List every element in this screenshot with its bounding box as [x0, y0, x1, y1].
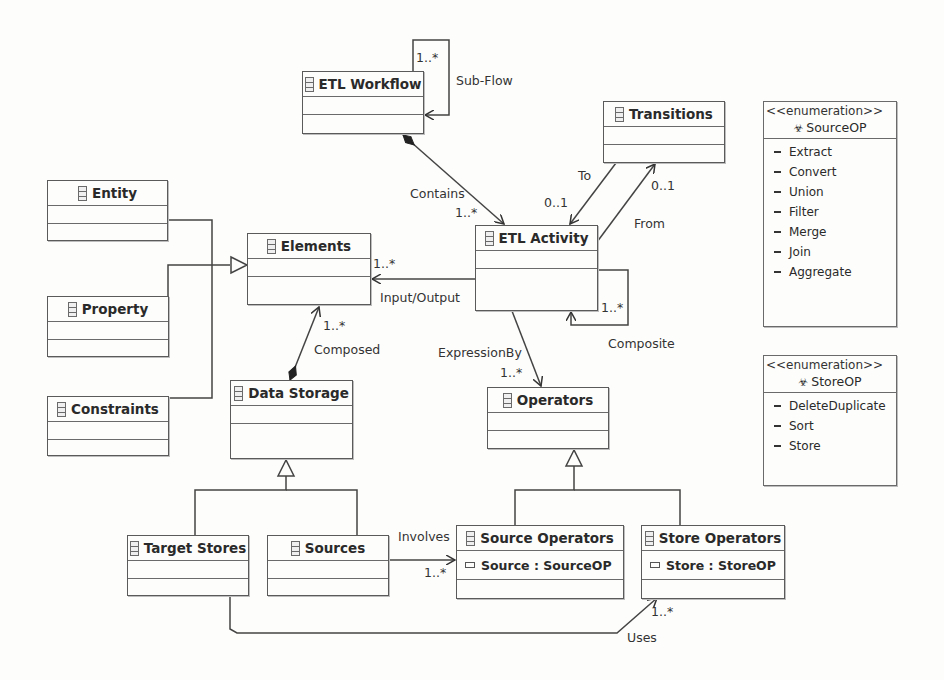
attribute-icon [465, 562, 475, 568]
attribute-store[interactable]: Store : StoreOP [666, 558, 776, 573]
operations-compartment [642, 580, 784, 597]
class-name: ETL Activity [499, 230, 589, 246]
class-icon [615, 107, 624, 122]
attributes-compartment [604, 127, 724, 145]
literal-icon [774, 171, 781, 173]
enum-literal[interactable]: Aggregate [764, 262, 896, 282]
enum-literal[interactable]: Filter [764, 202, 896, 222]
class-name: Elements [281, 238, 351, 254]
class-icon [305, 77, 314, 92]
literal-label: Filter [789, 205, 819, 219]
from-label: From [634, 216, 665, 231]
operations-compartment [476, 269, 597, 286]
class-icon [291, 541, 300, 556]
class-etl-workflow[interactable]: ETL Workflow [302, 71, 424, 134]
operations-compartment [457, 580, 623, 597]
enum-literal[interactable]: Store [764, 436, 896, 456]
involves-multiplicity: 1..* [424, 565, 446, 580]
class-icon [503, 393, 512, 408]
stereotype-label: <<enumeration>> [764, 358, 896, 372]
attributes-compartment [48, 206, 167, 224]
enum-literal[interactable]: Convert [764, 162, 896, 182]
enum-name: SourceOP [806, 120, 866, 135]
class-name: Target Stores [144, 540, 247, 556]
attributes-compartment [268, 561, 388, 579]
class-name: Constraints [71, 401, 159, 417]
literal-label: Sort [789, 419, 814, 433]
operations-compartment [48, 224, 167, 241]
literal-icon [774, 445, 781, 447]
class-transitions[interactable]: Transitions [603, 101, 725, 163]
enum-literal[interactable]: Union [764, 182, 896, 202]
class-name: Entity [92, 185, 137, 201]
uses-label: Uses [627, 630, 657, 645]
class-constraints[interactable]: Constraints [47, 396, 169, 456]
class-name: Store Operators [659, 530, 781, 546]
attribute-icon [650, 562, 660, 568]
class-icon [130, 541, 139, 556]
enum-sourceop[interactable]: <<enumeration>> ☣SourceOP Extract Conver… [763, 101, 897, 327]
class-elements[interactable]: Elements [247, 233, 371, 305]
expressionby-multiplicity: 1..* [500, 365, 522, 380]
composite-multiplicity: 1..* [601, 300, 623, 315]
attributes-compartment [48, 422, 168, 440]
class-icon [234, 386, 243, 401]
literal-icon [774, 191, 781, 193]
literal-icon [774, 405, 781, 407]
enum-literal[interactable]: Extract [764, 142, 896, 162]
class-icon [267, 239, 276, 254]
uses-multiplicity: 1..* [651, 604, 673, 619]
attributes-compartment [488, 413, 608, 431]
composite-label: Composite [608, 336, 675, 351]
class-data-storage[interactable]: Data Storage [230, 380, 353, 459]
class-etl-activity[interactable]: ETL Activity [475, 225, 598, 311]
enum-storeop[interactable]: <<enumeration>> ☣StoreOP DeleteDuplicate… [763, 355, 897, 486]
contains-label: Contains [410, 186, 465, 201]
literal-label: Merge [789, 225, 826, 239]
operations-compartment [48, 340, 168, 357]
enumeration-icon: ☣ [793, 122, 803, 135]
class-icon [485, 231, 494, 246]
literal-label: Aggregate [789, 265, 852, 279]
literal-label: Join [789, 245, 811, 259]
class-name: ETL Workflow [319, 76, 422, 92]
enum-literal[interactable]: Sort [764, 416, 896, 436]
operations-compartment [48, 440, 168, 457]
literal-icon [774, 151, 781, 153]
class-source-operators[interactable]: Source Operators Source : SourceOP [456, 525, 624, 599]
class-name: Data Storage [248, 385, 349, 401]
attributes-compartment [231, 406, 352, 424]
operations-compartment [248, 277, 370, 294]
class-target-stores[interactable]: Target Stores [127, 535, 249, 596]
literal-label: Convert [789, 165, 836, 179]
enum-literal[interactable]: Join [764, 242, 896, 262]
class-store-operators[interactable]: Store Operators Store : StoreOP [641, 525, 785, 599]
enum-literal[interactable]: DeleteDuplicate [764, 396, 896, 416]
attributes-compartment [476, 251, 597, 269]
attribute-source[interactable]: Source : SourceOP [481, 558, 612, 573]
class-icon [78, 186, 87, 201]
class-operators[interactable]: Operators [487, 387, 609, 449]
composed-label: Composed [314, 342, 380, 357]
operations-compartment [488, 431, 608, 448]
literal-label: Union [789, 185, 824, 199]
class-icon [645, 531, 654, 546]
literal-icon [774, 271, 781, 273]
class-icon [68, 302, 77, 317]
contains-multiplicity: 1..* [455, 205, 477, 220]
class-sources[interactable]: Sources [267, 535, 389, 596]
class-name: Transitions [629, 106, 713, 122]
io-label: Input/Output [380, 290, 460, 305]
enum-name: StoreOP [811, 374, 861, 389]
operations-compartment [128, 579, 248, 596]
operations-compartment [303, 115, 423, 132]
subflow-label: Sub-Flow [456, 73, 513, 88]
class-property[interactable]: Property [47, 296, 169, 357]
literal-icon [774, 425, 781, 427]
literal-icon [774, 211, 781, 213]
class-name: Operators [517, 392, 594, 408]
class-entity[interactable]: Entity [47, 180, 168, 241]
enum-literal[interactable]: Merge [764, 222, 896, 242]
attributes-compartment [303, 97, 423, 115]
class-name: Sources [305, 540, 365, 556]
